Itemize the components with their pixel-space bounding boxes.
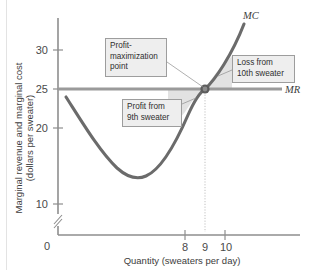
mr-line-label: MR <box>284 84 301 95</box>
y-tick-label-10: 10 <box>36 198 48 210</box>
leader-profit-max <box>167 62 203 87</box>
callout-profit-maximization-point: Profit- maximization point <box>105 38 167 77</box>
y-tick-label-20: 20 <box>36 122 48 134</box>
x-axis-title: Quantity (sweaters per day) <box>124 255 241 266</box>
mc-curve-label: MC <box>242 10 260 21</box>
x-tick-label-10: 10 <box>220 241 232 253</box>
profit-maximization-point-marker-inner <box>203 87 208 92</box>
y-axis-title-line-1: Marginal revenue and marginal cost <box>13 62 24 213</box>
y-tick-label-25: 25 <box>36 83 48 95</box>
y-axis-title-line-2: (dollars per sweater) <box>24 95 35 182</box>
x-tick-label-8: 8 <box>182 241 188 253</box>
x-tick-label-9: 9 <box>202 241 208 253</box>
callout-loss-from-10th-sweater: Loss from 10th sweater <box>232 55 295 83</box>
origin-label: 0 <box>44 240 50 252</box>
y-tick-label-30: 30 <box>36 44 48 56</box>
callout-profit-from-9th-sweater: Profit from 9th sweater <box>122 99 182 127</box>
marginal-cost-marginal-revenue-chart: MC MR 30 25 20 10 0 8 9 10 Quantity (swe… <box>0 0 312 270</box>
